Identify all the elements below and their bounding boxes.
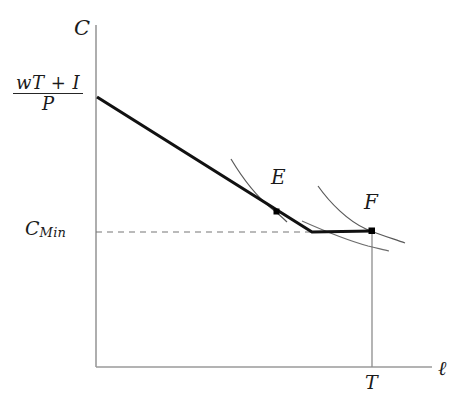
budget-constraint-figure: C ℓ T CMin wT + I P E F: [0, 0, 465, 416]
point-label-e: E: [271, 167, 286, 187]
point-marker-e: [274, 209, 280, 215]
indifference-curve-f-lower: [302, 221, 389, 251]
y-axis-tick-label-cmin: CMin: [25, 219, 66, 239]
plot-canvas: [0, 0, 465, 416]
y-axis-intercept-label: wT + I P: [13, 74, 83, 113]
cmin-subscript: Min: [40, 225, 67, 240]
intercept-denominator: P: [13, 94, 83, 113]
point-label-f: F: [364, 192, 378, 212]
y-axis-label: C: [74, 18, 90, 39]
point-marker-f: [369, 228, 376, 235]
intercept-fraction: wT + I P: [13, 74, 83, 113]
x-axis-tick-label-t: T: [365, 373, 378, 392]
indifference-curve-f: [318, 186, 405, 243]
x-axis-label: ℓ: [438, 358, 446, 378]
cmin-base: C: [25, 217, 40, 239]
intercept-numerator: wT + I: [13, 74, 83, 94]
